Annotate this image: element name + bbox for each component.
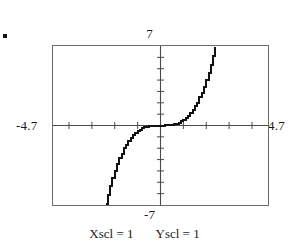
graphing-calculator-figure: 7 -4.7 4.7 -7 Xscl = 1 Yscl = 1 [0, 0, 289, 247]
y-min-label: -7 [5, 208, 289, 221]
yscl-note: Yscl = 1 [156, 227, 200, 241]
plot-canvas [53, 46, 268, 205]
x-max-label: 4.7 [268, 119, 285, 132]
x-min-label: -4.7 [16, 119, 37, 132]
xscl-note: Xscl = 1 [89, 227, 133, 241]
calculator-screen-frame [52, 45, 269, 206]
scale-annotations: Xscl = 1 Yscl = 1 [0, 227, 289, 241]
y-max-label: 7 [5, 27, 289, 40]
